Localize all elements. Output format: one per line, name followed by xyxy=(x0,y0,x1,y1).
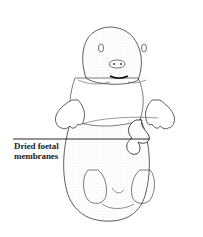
right-forelimb xyxy=(145,100,174,129)
annotation-label-line2: membranes xyxy=(14,151,58,161)
platypus-drawing xyxy=(0,0,203,237)
head-outline xyxy=(83,27,142,84)
annotation-label-line1: Dried foetal xyxy=(14,141,59,151)
illustration xyxy=(0,0,203,237)
left-forelimb xyxy=(55,100,84,129)
